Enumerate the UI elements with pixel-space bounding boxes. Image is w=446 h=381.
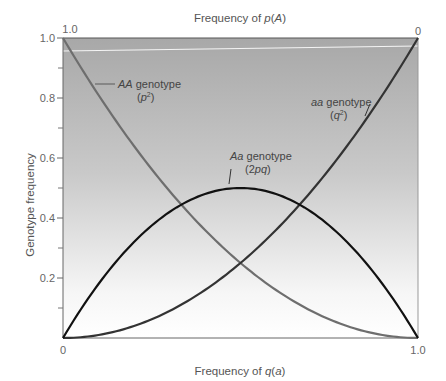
x-axis-title: Frequency of q(a) [195,365,286,377]
y-tick-label: 0.8 [40,92,55,104]
x-tick-left: 0 [60,344,66,356]
AA-formula: (p2) [137,91,154,103]
Aa-annotation: Aa genotype [229,150,292,162]
x2-tick-left: 1.0 [62,23,77,35]
genotype-frequency-chart: 0.20.40.60.81.0 AA genotype (p2) aa geno… [0,0,446,381]
aa-annotation: aa genotype [311,96,372,108]
aa-formula: (q2) [330,109,347,121]
AA-annotation: AA genotype [117,78,181,90]
y-tick-label: 0.2 [40,272,55,284]
y-axis-title: Genotype frequency [24,153,36,257]
y-ticks: 0.20.40.60.81.0 [40,32,63,308]
Aa-formula: (2pq) [245,163,271,175]
x-tick-right: 1.0 [410,344,425,356]
x2-tick-right: 0 [415,25,421,37]
y-tick-label: 0.6 [40,152,55,164]
y-tick-label: 1.0 [40,32,55,44]
y-tick-label: 0.4 [40,212,55,224]
x2-axis-title: Frequency of p(A) [194,12,286,24]
